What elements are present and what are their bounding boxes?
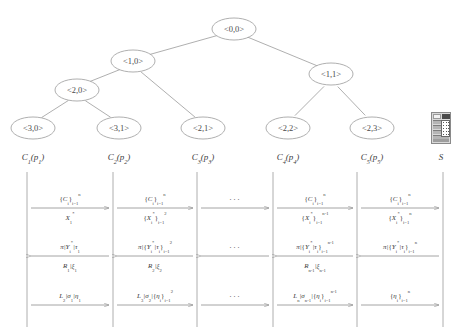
message-label-above-row-1-3: {Ci}i=1n [304,196,325,203]
message-label-above-row-3-3: Ln|σn-1|{ηi}i=1n-1 [293,293,337,300]
message-label-above-row-2-4: π|{Yi*|τi}i=1n [383,244,417,251]
tree-edge [141,72,195,117]
server-screen-icon [442,114,450,119]
message-label-above-row-2-1: π|{Yi*|τi}i=12 [138,244,172,251]
server-label: S [439,152,444,162]
message-label-above-row-3-4: {ηi}i=1n [390,293,410,300]
message-label-above-row-1-4: {Ci}i=1n [389,196,410,203]
message-label-above-row-3-2: ··· [229,292,241,301]
tree-node-label: <3,0> [23,123,43,133]
server-keypad-icon [441,120,450,137]
message-label-above-row-1-0: {Ci}i=1n [59,196,80,203]
leaf-caption-c3: C3(p3) [192,152,215,162]
message-label-above-row-1-1: {Ci}i=1n [144,196,165,203]
message-label-above-row-3-1: L3|σ2|{ηi}i=12 [137,293,173,300]
tree-node-label: <2,2> [278,123,298,133]
sequence-diagram: {Ci}i=1nX1*{Ci}i=1n{Xi*}i=12···{Ci}i=1n{… [0,172,468,333]
server-base-icon [433,139,449,142]
server-tower-icon [431,112,451,144]
leaf-caption-c2: C2(p2) [108,152,131,162]
message-label-above-row-2-3: π|{Yi*|τi}i=1n-1 [296,244,334,251]
message-label-below-row-1-4: {Xi*}i=1n [388,215,411,222]
tree-edge [85,101,110,118]
tree-diagram: <0,0><1,0><1,1><2,0><3,0><3,1><2,1><2,2>… [0,0,468,172]
tree-edge [338,87,366,116]
tree-edge [295,86,324,115]
tree-edge [87,68,123,82]
leaf-caption-c1: C1(p1) [22,152,45,162]
message-label-above-row-3-0: L2|σ1|η1 [59,293,81,300]
leaf-caption-c5: C5(p5) [361,152,384,162]
message-label-below-row-1-0: X1* [66,215,75,222]
message-label-above-row-2-0: π|Yi*|τ1 [60,244,80,251]
tree-node-label: <2,0> [67,85,87,95]
server-bay-light-icon [433,114,441,119]
message-label-below-row-2-0: R1|ξ1 [63,263,77,270]
figure-canvas: <0,0><1,0><1,1><2,0><3,0><3,1><2,1><2,2>… [0,0,468,333]
message-label-below-row-2-3: Rn-1|ξn-1 [304,263,326,270]
tree-node-label: <1,0> [123,56,143,66]
tree-edge [41,100,68,117]
message-label-below-row-2-1: R2|ξ2 [148,263,162,270]
tree-node-label: <2,1> [193,123,213,133]
message-label-above-row-1-2: ··· [229,195,241,204]
message-label-above-row-2-2: ··· [229,243,241,252]
tree-edge [144,34,224,56]
tree-node-label: <3,1> [109,123,129,133]
tree-edge [244,36,321,68]
leaf-caption-c4: C4(p4) [277,152,300,162]
message-label-below-row-1-3: {Xi*}i=1n-1 [302,215,329,222]
tree-node-label: <0,0> [224,24,244,34]
message-label-below-row-1-1: {Xi*}i=12 [143,215,166,222]
tree-node-label: <2,3> [362,123,382,133]
tree-node-label: <1,1> [321,69,341,79]
